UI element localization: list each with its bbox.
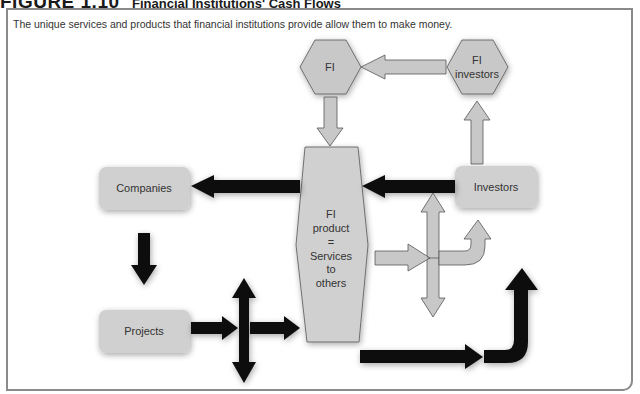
- fi-product-line-5: to: [326, 263, 335, 275]
- fi-investors-label-1: FI: [472, 54, 482, 66]
- fi-investors-node: [447, 40, 508, 94]
- fi-label: FI: [325, 61, 335, 73]
- companies-label: Companies: [116, 182, 172, 194]
- arrow-companies-to-projects: [131, 233, 157, 285]
- fi-product-line-3: =: [328, 236, 334, 248]
- arrow-projects-to-cross: [191, 316, 238, 340]
- arrow-fi-investors-to-fi: [361, 55, 446, 79]
- fi-product-line-1: FI: [326, 208, 336, 220]
- arrow-fi-to-product: [317, 97, 343, 146]
- arrow-investors-to-product: [362, 175, 455, 198]
- projects-label: Projects: [124, 325, 164, 337]
- arrow-product-to-cross-gray: [375, 244, 430, 271]
- arrow-bent-to-investors-gray: [439, 220, 491, 265]
- fi-product-line-6: others: [316, 277, 347, 289]
- arrow-bend-up: [484, 268, 538, 363]
- arrow-cross-to-product: [250, 316, 300, 340]
- cash-flow-diagram: FI FI investors FI product = Services to…: [0, 0, 640, 394]
- fi-product-line-4: Services: [310, 250, 353, 262]
- fi-product-line-2: product: [313, 222, 350, 234]
- arrow-investors-to-fi-investors: [464, 101, 490, 164]
- arrow-product-to-right-long: [360, 344, 483, 369]
- arrow-product-to-companies: [191, 175, 300, 198]
- investors-label: Investors: [474, 181, 519, 193]
- fi-investors-label-2: investors: [455, 68, 500, 80]
